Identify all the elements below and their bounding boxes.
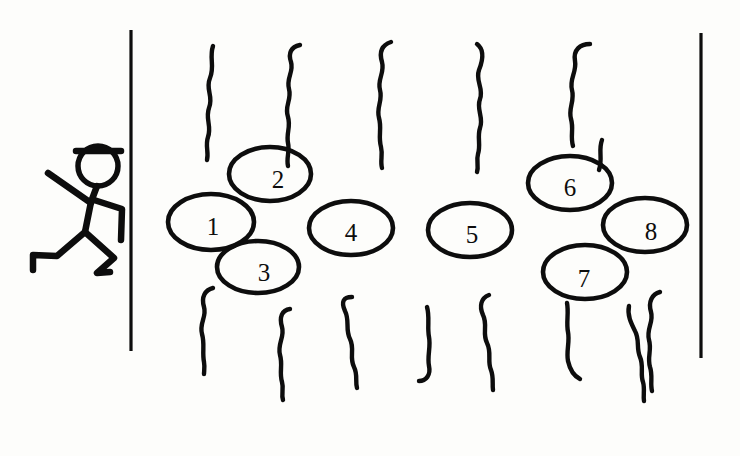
grass-group-top: [207, 42, 602, 172]
grass-group-bottom: [201, 288, 660, 401]
stone-ellipse-label-3: 3: [258, 259, 271, 286]
grass-bottom-3: [343, 297, 357, 388]
stone-ellipse-label-6: 6: [564, 174, 577, 201]
grass-top-1: [207, 46, 213, 160]
figure-torso: [85, 202, 91, 232]
stone-ellipse-6[interactable]: 6: [528, 156, 612, 210]
figure-right-arm: [94, 200, 122, 240]
stone-ellipse-label-4: 4: [345, 219, 358, 246]
stone-ellipse-label-5: 5: [466, 221, 479, 248]
stone-ellipse-label-2: 2: [272, 166, 285, 193]
grass-bottom-6: [567, 303, 580, 379]
grass-top-4: [477, 44, 483, 172]
grass-bottom-1: [201, 288, 213, 374]
stone-ellipse-label-8: 8: [645, 218, 658, 245]
stone-ellipse-5[interactable]: 5: [428, 203, 512, 257]
stone-ellipse-2[interactable]: 2: [229, 147, 311, 201]
stone-ellipse-label-1: 1: [207, 213, 220, 240]
grass-bottom-8: [648, 292, 660, 391]
grass-top-3: [378, 42, 391, 168]
grass-bottom-4: [419, 307, 430, 381]
figure-right-leg: [85, 232, 114, 273]
drawing-canvas: 12345678: [0, 0, 740, 456]
stone-ellipse-outline-2: [229, 147, 311, 201]
stone-ellipse-7[interactable]: 7: [543, 245, 627, 299]
stick-figure-person: [33, 146, 122, 273]
scene-svg: 12345678: [0, 0, 740, 456]
stone-ellipse-8[interactable]: 8: [603, 198, 687, 252]
stone-ellipse-label-7: 7: [578, 265, 591, 292]
numbered-ellipse-group: 12345678: [168, 147, 687, 299]
stone-ellipse-3[interactable]: 3: [217, 241, 299, 293]
grass-bottom-2: [279, 309, 290, 400]
stone-ellipse-4[interactable]: 4: [309, 201, 393, 255]
grass-bottom-5: [481, 295, 493, 390]
grass-top-5: [570, 44, 590, 146]
figure-left-leg: [33, 232, 85, 270]
grass-bottom-7: [628, 306, 644, 401]
